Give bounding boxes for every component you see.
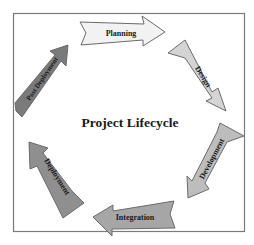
diagram-title: Project Lifecycle [82,115,179,130]
project-lifecycle-diagram: Project Lifecycle Planning Design Develo… [0,0,254,245]
stage-label-planning: Planning [106,29,137,38]
stage-label-integration: Integration [116,213,155,222]
